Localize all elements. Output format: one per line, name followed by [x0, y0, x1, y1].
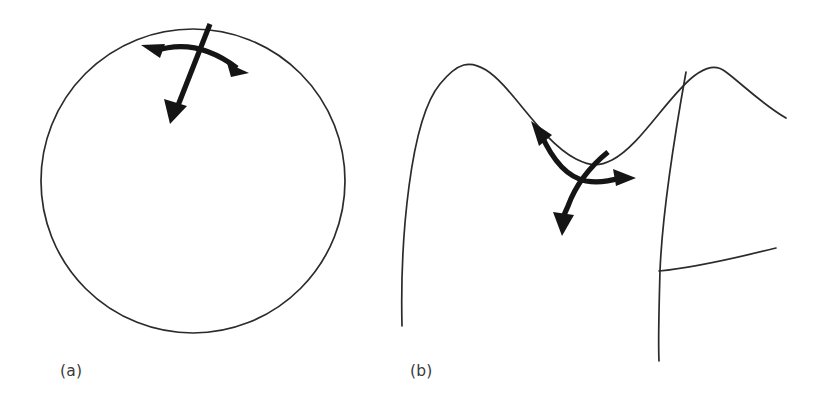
- figure-container: (a) (b): [0, 0, 827, 415]
- figure-svg: [0, 0, 827, 415]
- panel-label-b: (b): [410, 362, 433, 380]
- panel-b-wave-curve: [402, 64, 786, 326]
- panel-b-vertical-fold-curve: [659, 72, 686, 361]
- panel-b-tangent-arrowhead-right: [613, 169, 636, 186]
- panel-b-horizontal-fold-curve: [659, 248, 776, 271]
- panel-b-tangent-arrowhead-upleft: [531, 121, 552, 146]
- panel-a-tangent-arrowhead-left: [141, 44, 165, 58]
- panel-a-group: [41, 24, 345, 333]
- panel-label-a: (a): [60, 362, 82, 380]
- panel-a-normal-arrow-shaft: [177, 24, 210, 108]
- panel-a-normal-arrowhead: [164, 99, 187, 124]
- panel-a-tangent-arrowhead-right: [227, 63, 249, 77]
- panel-a-circle: [41, 29, 345, 333]
- panel-b-normal-arrowhead: [553, 212, 574, 236]
- panel-b-group: [402, 64, 786, 361]
